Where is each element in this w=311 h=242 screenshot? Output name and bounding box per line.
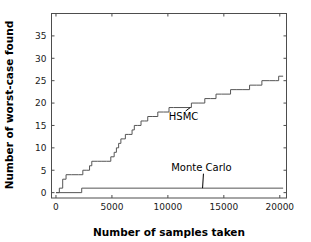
y-axis-ticks: 05101520253035 <box>35 31 286 198</box>
annotation-leader-monte-carlo <box>203 174 204 188</box>
series-line-monte-carlo <box>56 188 283 192</box>
y-tick-label: 35 <box>35 31 46 41</box>
y-tick-label: 15 <box>35 121 46 131</box>
chart-canvas: 05101520253035 05000100001500020000 HSMC… <box>0 0 311 242</box>
y-axis-title: Number of worst-case found <box>3 21 15 189</box>
x-tick-label: 0 <box>53 202 59 212</box>
annotation-label-monte-carlo: Monte Carlo <box>171 162 231 173</box>
x-axis-title: Number of samples taken <box>93 226 245 238</box>
x-tick-label: 5000 <box>100 202 123 212</box>
y-tick-label: 30 <box>35 54 47 64</box>
y-tick-label: 0 <box>41 188 47 198</box>
annotation-label-hsmc: HSMC <box>169 111 198 122</box>
x-tick-label: 10000 <box>154 202 183 212</box>
y-tick-label: 5 <box>41 166 47 176</box>
x-tick-label: 15000 <box>210 202 239 212</box>
y-tick-label: 20 <box>35 98 47 108</box>
chart-figure: 05101520253035 05000100001500020000 HSMC… <box>0 0 311 242</box>
y-tick-label: 10 <box>35 143 47 153</box>
series-line-hsmc <box>56 76 283 192</box>
annotation-labels: HSMCMonte Carlo <box>169 111 232 173</box>
x-tick-label: 20000 <box>265 202 294 212</box>
y-tick-label: 25 <box>35 76 46 86</box>
